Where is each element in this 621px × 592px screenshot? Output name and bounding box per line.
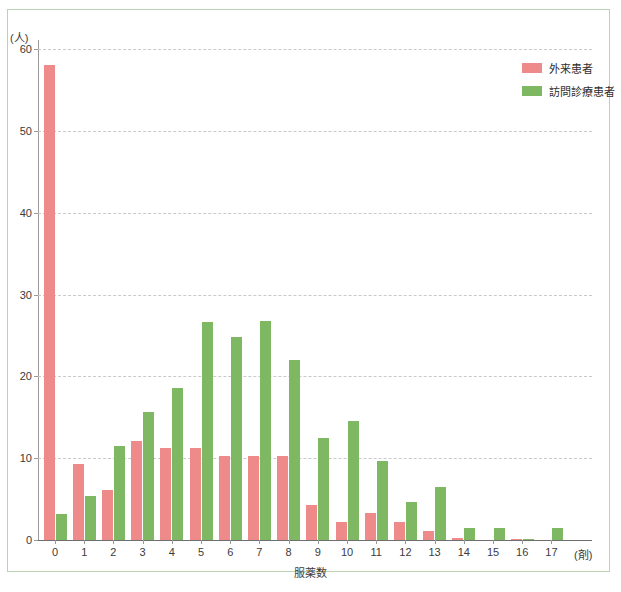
x-tick-mark [493, 540, 494, 544]
x-tick-label: 6 [227, 546, 233, 558]
y-tick-label: 60 [20, 43, 32, 55]
bar [406, 502, 417, 540]
x-tick-label: 0 [52, 546, 58, 558]
bar [289, 360, 300, 540]
x-tick-mark [464, 540, 465, 544]
y-tick-label: 20 [20, 370, 32, 382]
y-tick-label: 0 [26, 534, 32, 546]
x-tick-label: 9 [315, 546, 321, 558]
legend-item-home-visit: 訪問診療患者 [522, 83, 615, 99]
bar [143, 412, 154, 540]
bar [131, 441, 142, 540]
x-tick-label: 17 [545, 546, 557, 558]
y-tick-label: 30 [20, 289, 32, 301]
x-tick-mark [289, 540, 290, 544]
bar [464, 528, 475, 540]
bar [277, 456, 288, 540]
x-tick-label: 12 [399, 546, 411, 558]
x-tick-label: 15 [487, 546, 499, 558]
y-tick-label: 40 [20, 207, 32, 219]
bar [219, 456, 230, 540]
legend-label-outpatient: 外来患者 [549, 60, 593, 76]
y-tick-label: 10 [20, 452, 32, 464]
bar [114, 446, 125, 540]
x-tick-mark [318, 540, 319, 544]
y-tick-mark [34, 458, 38, 459]
bar [202, 322, 213, 540]
plot-inner: 0102030405060 01234567891011121314151617 [38, 40, 592, 540]
x-tick-mark [435, 540, 436, 544]
x-tick-mark [259, 540, 260, 544]
x-tick-label: 7 [256, 546, 262, 558]
bar [523, 539, 534, 540]
bar [160, 448, 171, 540]
bar [552, 528, 563, 540]
bar [85, 496, 96, 540]
y-tick-label: 50 [20, 125, 32, 137]
x-tick-mark [55, 540, 56, 544]
x-tick-mark [201, 540, 202, 544]
legend-label-home-visit: 訪問診療患者 [549, 83, 615, 99]
x-tick-label: 10 [341, 546, 353, 558]
legend-swatch-icon-outpatient [522, 63, 542, 73]
bar [336, 522, 347, 540]
x-tick-mark [347, 540, 348, 544]
x-tick-mark [172, 540, 173, 544]
x-tick-mark [113, 540, 114, 544]
bar [377, 461, 388, 540]
gridline [38, 49, 592, 50]
x-tick-mark [405, 540, 406, 544]
bar [394, 522, 405, 540]
x-tick-label: 13 [428, 546, 440, 558]
x-tick-label: 3 [140, 546, 146, 558]
x-tick-label: 2 [110, 546, 116, 558]
bar [365, 513, 376, 540]
x-tick-mark [230, 540, 231, 544]
bar [248, 456, 259, 540]
y-tick-mark [34, 540, 38, 541]
plot-area: 0102030405060 01234567891011121314151617… [38, 40, 592, 540]
y-tick-mark [34, 213, 38, 214]
legend-swatch-icon-home-visit [522, 86, 542, 96]
gridline [38, 376, 592, 377]
x-tick-mark [551, 540, 552, 544]
bar [172, 388, 183, 540]
x-tick-label: 11 [370, 546, 381, 558]
x-tick-label: 8 [286, 546, 292, 558]
bar [318, 438, 329, 540]
x-tick-label: 1 [81, 546, 87, 558]
bar [260, 321, 271, 540]
x-tick-mark [522, 540, 523, 544]
gridline [38, 131, 592, 132]
gridline [38, 295, 592, 296]
bar [231, 337, 242, 540]
legend: 外来患者 訪問診療患者 [522, 60, 615, 106]
x-tick-mark [143, 540, 144, 544]
x-axis-line [38, 540, 592, 541]
x-tick-mark [376, 540, 377, 544]
bar [494, 528, 505, 540]
bar [44, 65, 55, 540]
chart-figure: (人) 0102030405060 0123456789101112131415… [0, 0, 621, 592]
bar [452, 538, 463, 540]
y-tick-mark [34, 376, 38, 377]
x-axis-unit-label: (剤) [574, 546, 592, 562]
bar [190, 448, 201, 540]
bar [423, 531, 434, 540]
bar [435, 487, 446, 540]
bar [73, 464, 84, 540]
y-tick-mark [34, 131, 38, 132]
x-tick-label: 5 [198, 546, 204, 558]
y-axis-line [38, 40, 39, 540]
legend-item-outpatient: 外来患者 [522, 60, 615, 76]
x-tick-label: 14 [458, 546, 470, 558]
x-tick-mark [84, 540, 85, 544]
bar [348, 421, 359, 540]
bar [511, 539, 522, 540]
bar [56, 514, 67, 540]
y-tick-mark [34, 295, 38, 296]
x-tick-label: 16 [516, 546, 528, 558]
y-tick-mark [34, 49, 38, 50]
gridline [38, 213, 592, 214]
bar [306, 505, 317, 540]
